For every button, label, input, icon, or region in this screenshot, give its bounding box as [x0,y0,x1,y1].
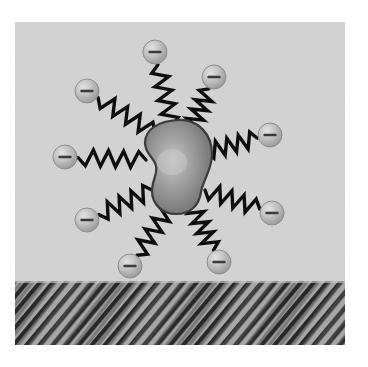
schematic-diagram [0,0,368,367]
core-highlight [157,149,187,175]
minus-sign-icon [80,219,93,222]
minus-sign-icon [263,134,276,137]
substrate [15,281,345,345]
charge-bead-bottom [118,254,142,278]
minus-sign-icon [207,76,220,79]
minus-sign-icon [123,265,136,268]
charge-bead-lower-right [260,201,284,225]
figure-root [0,0,368,367]
charge-bead-bottom-right [207,250,231,274]
charge-bead-top [143,40,167,64]
charge-bead-right [258,123,282,147]
minus-sign-icon [58,156,71,159]
minus-sign-icon [80,90,93,93]
minus-sign-icon [148,51,161,54]
minus-sign-icon [212,261,225,264]
charge-bead-upper-left [75,79,99,103]
charge-bead-upper-right [202,65,226,89]
charge-bead-left [53,145,77,169]
charge-bead-lower-left [75,208,99,232]
minus-sign-icon [265,212,278,215]
